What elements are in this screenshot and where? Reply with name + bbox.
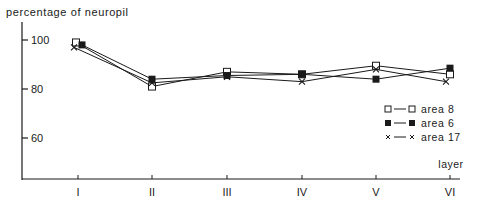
open-square-marker-icon bbox=[373, 62, 380, 69]
x-axis: I II III IV V VI layer bbox=[22, 158, 464, 198]
filled-square-marker-icon bbox=[447, 65, 454, 72]
legend: area 8 area 6 area 17 bbox=[385, 103, 461, 143]
x-axis-label: layer bbox=[438, 158, 463, 170]
x-tick-label-VI: VI bbox=[445, 186, 455, 198]
series-line bbox=[82, 45, 450, 79]
y-axis: 100 80 60 bbox=[22, 22, 49, 180]
filled-square-marker-icon bbox=[409, 120, 415, 126]
legend-item-area-17: area 17 bbox=[386, 131, 461, 143]
line-chart: percentage of neuropil 100 80 60 I II II… bbox=[0, 0, 485, 211]
series-area-17 bbox=[71, 44, 449, 86]
y-tick-label-60: 60 bbox=[31, 132, 43, 144]
y-tick-label-100: 100 bbox=[31, 34, 49, 46]
x-tick-label-II: II bbox=[149, 186, 155, 198]
x-tick-label-III: III bbox=[222, 186, 231, 198]
x-tick-label-I: I bbox=[76, 186, 79, 198]
x-tick-label-IV: IV bbox=[297, 186, 308, 198]
filled-square-marker-icon bbox=[373, 76, 380, 83]
y-tick-label-80: 80 bbox=[31, 83, 43, 95]
filled-square-marker-icon bbox=[224, 72, 231, 79]
open-square-marker-icon bbox=[149, 83, 156, 90]
series-line bbox=[76, 42, 450, 86]
y-axis-label: percentage of neuropil bbox=[6, 6, 129, 18]
filled-square-marker-icon bbox=[79, 41, 86, 48]
legend-item-area-6: area 6 bbox=[385, 117, 454, 129]
legend-label: area 8 bbox=[421, 103, 454, 115]
legend-label: area 17 bbox=[421, 131, 461, 143]
cross-marker-icon bbox=[386, 135, 390, 139]
cross-marker-icon bbox=[410, 135, 414, 139]
x-tick-label-V: V bbox=[372, 186, 380, 198]
filled-square-marker-icon bbox=[385, 120, 391, 126]
open-square-marker-icon bbox=[385, 106, 391, 112]
legend-item-area-8: area 8 bbox=[385, 103, 454, 115]
plot-area bbox=[71, 39, 454, 90]
series-area-8 bbox=[73, 39, 454, 90]
filled-square-marker-icon bbox=[299, 71, 306, 78]
open-square-marker-icon bbox=[447, 71, 454, 78]
legend-label: area 6 bbox=[421, 117, 454, 129]
open-square-marker-icon bbox=[409, 106, 415, 112]
